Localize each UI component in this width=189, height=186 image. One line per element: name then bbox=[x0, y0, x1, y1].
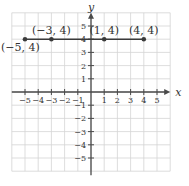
data-point bbox=[102, 37, 107, 42]
y-axis-label: y bbox=[87, 1, 95, 14]
x-tick-label: 2 bbox=[115, 96, 120, 105]
y-tick-label: −5 bbox=[74, 154, 86, 163]
y-tick-label: −4 bbox=[74, 141, 86, 150]
y-tick-label: 3 bbox=[81, 48, 86, 57]
coordinate-plane: xy −5−4−3−2−112345−5−4−3−2−112345 (−5, 4… bbox=[0, 0, 189, 186]
data-point bbox=[142, 37, 147, 42]
data-point bbox=[49, 37, 54, 42]
x-tick-label: −2 bbox=[59, 96, 71, 105]
point-label: (1, 4) bbox=[89, 24, 119, 37]
x-tick-label: 1 bbox=[102, 96, 107, 105]
x-axis-arrow-icon bbox=[164, 89, 170, 95]
x-tick-label: −5 bbox=[19, 96, 31, 105]
x-tick-label: 3 bbox=[128, 96, 133, 105]
x-tick-label: 4 bbox=[141, 96, 146, 105]
point-label: (4, 4) bbox=[129, 24, 159, 37]
point-label: (−5, 4) bbox=[1, 41, 40, 54]
x-tick-label: 5 bbox=[154, 96, 159, 105]
x-tick-label: −4 bbox=[32, 96, 44, 105]
x-axis-label: x bbox=[175, 86, 182, 99]
y-tick-label: 1 bbox=[81, 75, 86, 84]
y-tick-label: 2 bbox=[81, 62, 86, 71]
y-tick-label: 5 bbox=[81, 22, 86, 31]
y-tick-label: −3 bbox=[74, 128, 86, 137]
y-tick-label: −2 bbox=[74, 114, 86, 123]
x-tick-label: −3 bbox=[46, 96, 58, 105]
point-label: (−3, 4) bbox=[32, 24, 71, 37]
y-tick-label: −1 bbox=[74, 101, 86, 110]
